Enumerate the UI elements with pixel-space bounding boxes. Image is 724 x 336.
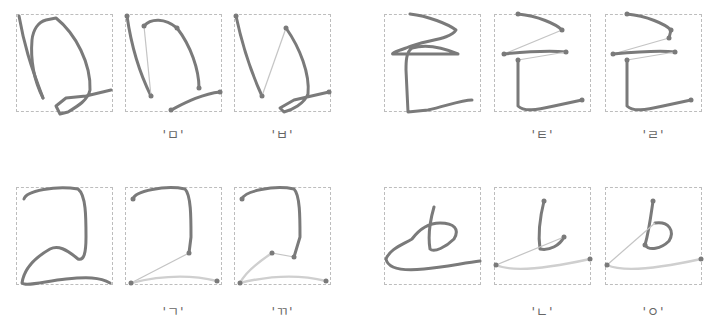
panel-input-trajectory-3 xyxy=(16,187,113,285)
segmented-stroke-icon xyxy=(494,14,591,112)
panel-input-trajectory-1 xyxy=(16,14,113,112)
panel-label: 'ㅂ' xyxy=(234,124,331,143)
panel-label: 'ㅌ' xyxy=(494,124,591,143)
handwriting-trajectory-icon xyxy=(16,14,113,112)
handwriting-trajectory-icon xyxy=(384,187,481,285)
segmented-stroke-icon xyxy=(605,14,702,112)
segmented-stroke-icon xyxy=(125,187,222,285)
segmented-stroke-icon xyxy=(494,187,591,285)
panel-label: 'ㄲ' xyxy=(234,301,331,320)
segmented-stroke-icon xyxy=(234,14,331,112)
panel-label: 'ㅇ' xyxy=(605,301,702,320)
panel-segmented-1a xyxy=(125,14,222,112)
panel-label: 'ㄹ' xyxy=(605,124,702,143)
panel-segmented-3b xyxy=(234,187,331,285)
panel-label: 'ㅁ' xyxy=(125,124,222,143)
handwriting-trajectory-icon xyxy=(384,14,481,112)
panel-segmented-2a xyxy=(494,14,591,112)
panel-input-trajectory-2 xyxy=(384,14,481,112)
panel-label: 'ㄴ' xyxy=(494,301,591,320)
panel-segmented-1b xyxy=(234,14,331,112)
panel-segmented-3a xyxy=(125,187,222,285)
panel-label: 'ㄱ' xyxy=(125,301,222,320)
segmented-stroke-icon xyxy=(234,187,331,285)
segmented-stroke-icon xyxy=(605,187,702,285)
handwriting-trajectory-icon xyxy=(16,187,113,285)
panel-input-trajectory-4 xyxy=(384,187,481,285)
segmented-stroke-icon xyxy=(125,14,222,112)
panel-segmented-4b xyxy=(605,187,702,285)
panel-segmented-4a xyxy=(494,187,591,285)
panel-segmented-2b xyxy=(605,14,702,112)
